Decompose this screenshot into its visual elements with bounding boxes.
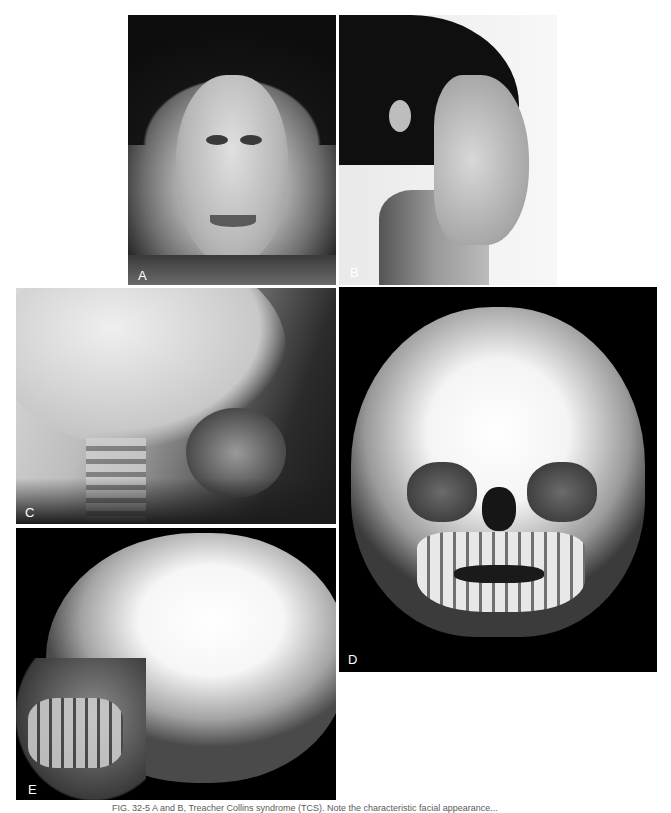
- panel-label-a: A: [138, 269, 147, 282]
- left-orbit-shape: [407, 462, 477, 522]
- panel-c-radiograph: C: [16, 288, 336, 524]
- face-shape: [434, 75, 529, 245]
- panel-d-ct-frontal: D: [339, 287, 657, 672]
- right-orbit-shape: [527, 462, 597, 522]
- ear-shape: [389, 100, 411, 132]
- nasal-cavity-shape: [482, 487, 516, 531]
- panel-label-c: C: [25, 506, 34, 519]
- shirt-shape: [128, 255, 336, 285]
- right-eye-shape: [240, 135, 262, 145]
- panel-b-profile-photo: B: [339, 15, 557, 285]
- panel-label-d: D: [348, 653, 357, 666]
- panel-a-frontal-photo: A: [128, 15, 336, 285]
- mouth-shape: [454, 565, 544, 583]
- left-eye-shape: [206, 135, 228, 145]
- shadow-shape: [16, 478, 336, 524]
- panel-label-b: B: [350, 266, 359, 279]
- panel-e-ct-lateral: E: [16, 528, 336, 800]
- figure-caption: FIG. 32-5 A and B, Treacher Collins synd…: [112, 803, 657, 813]
- teeth-shape: [28, 698, 123, 768]
- mouth-shape: [210, 215, 256, 227]
- face-shape: [176, 75, 288, 265]
- panel-label-e: E: [28, 783, 37, 796]
